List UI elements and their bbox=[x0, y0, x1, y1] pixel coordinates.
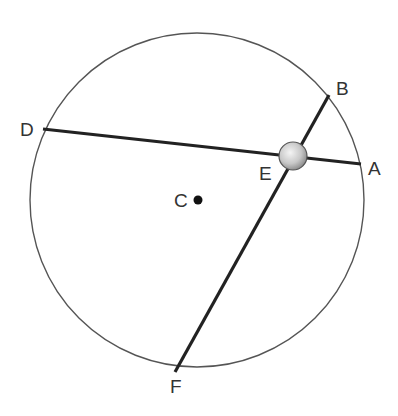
chord-da bbox=[43, 129, 361, 164]
label-f: F bbox=[170, 376, 182, 397]
intersection-marker-e bbox=[279, 142, 307, 170]
label-e: E bbox=[259, 163, 272, 184]
label-b: B bbox=[336, 78, 349, 99]
chord-bf bbox=[175, 95, 329, 372]
geometry-diagram: B A D E F C bbox=[0, 0, 398, 416]
label-a: A bbox=[368, 158, 381, 179]
label-c: C bbox=[174, 190, 188, 211]
center-point-c bbox=[194, 196, 203, 205]
label-d: D bbox=[20, 119, 34, 140]
